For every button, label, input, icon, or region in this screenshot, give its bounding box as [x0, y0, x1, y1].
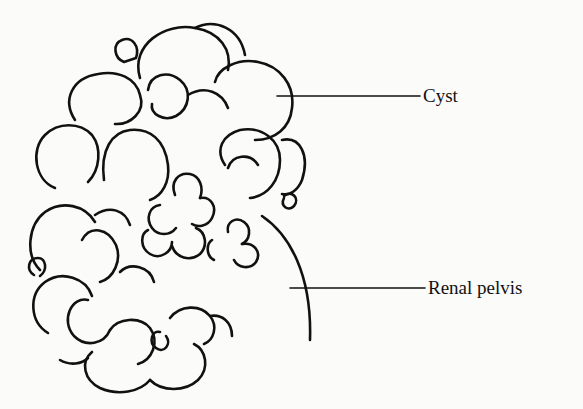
cyst-cluster — [29, 24, 305, 392]
renal-pelvis-outline — [262, 216, 310, 340]
renal-pelvis-label: Renal pelvis — [428, 278, 522, 297]
cyst-label: Cyst — [423, 86, 458, 105]
polycystic-kidney-illustration — [0, 0, 583, 409]
diagram-canvas: Cyst Renal pelvis — [0, 0, 583, 409]
